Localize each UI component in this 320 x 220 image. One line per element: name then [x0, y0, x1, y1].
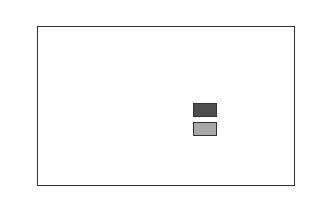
legend-swatch-aids-deaths: [193, 103, 217, 117]
plot-area: [37, 26, 295, 186]
legend-swatch-people-using-drugs: [193, 122, 217, 136]
legend: [193, 100, 222, 138]
legend-item-people-using-drugs: [193, 119, 222, 138]
legend-item-aids-deaths: [193, 100, 222, 119]
